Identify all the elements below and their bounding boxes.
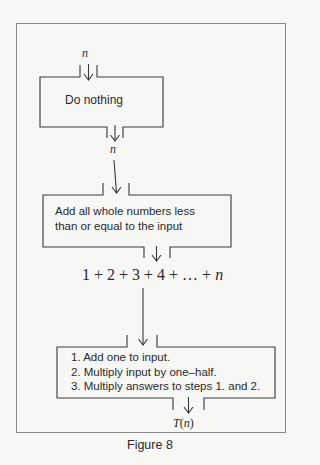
arrow-into-box3 [139, 288, 148, 345]
arrow-out-box2 [152, 246, 161, 261]
step-2: 2. Multiply input by one–half. [71, 365, 260, 380]
arrow-out-box1 [111, 125, 120, 141]
arrow-into-box2 [112, 160, 121, 193]
box2-line2: than or equal to the input [55, 219, 195, 234]
expression-var-n: n [215, 266, 223, 283]
output-paren-close: ) [190, 416, 194, 430]
box3-steps: 1. Add one to input. 2. Multiply input b… [71, 350, 260, 394]
output-fn: T [173, 416, 180, 430]
figure-caption: Figure 8 [127, 438, 173, 452]
output-label-tn: T(n) [173, 416, 194, 431]
arrow-into-box1 [84, 64, 93, 80]
step-3: 3. Multiply answers to steps 1. and 2. [71, 379, 260, 394]
box1-text: Do nothing [65, 93, 123, 107]
sum-expression: 1 + 2 + 3 + 4 + … + n [82, 266, 223, 284]
step-1: 1. Add one to input. [71, 350, 260, 365]
input-label-n: n [82, 46, 88, 61]
middle-label-n: n [110, 142, 116, 157]
expression-prefix: 1 + 2 + 3 + 4 + … + [82, 266, 215, 283]
arrow-out-box3 [184, 397, 193, 413]
box2-line1: Add all whole numbers less [55, 204, 195, 219]
box2-text: Add all whole numbers less than or equal… [55, 204, 195, 233]
